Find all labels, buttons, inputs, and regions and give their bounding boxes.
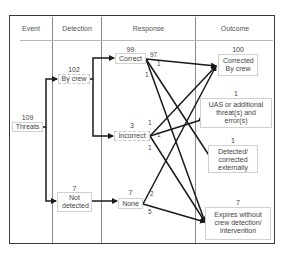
- edge-label-none-corrected: 2: [150, 190, 154, 197]
- edge-label-correct-detected: 1: [157, 60, 161, 67]
- detected-externally-count: 1: [208, 137, 258, 145]
- uas-or-additional-node: UAS or additional threat(s) and error(s): [200, 98, 272, 128]
- corrected-by-crew-node: Corrected By crew: [218, 54, 258, 76]
- threats-node: Threats: [12, 122, 43, 132]
- expires-count: 7: [205, 199, 271, 207]
- by-crew-node: By crew: [58, 74, 90, 84]
- threats-count: 109: [12, 114, 43, 122]
- edge-label-none-expires: 5: [148, 208, 152, 215]
- by-crew-count: 102: [58, 66, 90, 74]
- corrected-by-crew-count: 100: [218, 46, 258, 54]
- edge-label-incorrect-expires: 1: [148, 144, 152, 151]
- detected-externally-node: Detected/ corrected externally: [208, 145, 258, 173]
- correct-node: Correct: [115, 53, 146, 64]
- edge-label-correct-corrected: 97: [150, 51, 157, 58]
- expires-node: Expires without crew detection/ interven…: [205, 207, 271, 240]
- not-detected-node: Not detected: [57, 192, 92, 212]
- none-node: None: [118, 198, 143, 209]
- incorrect-node: Incorrect: [114, 131, 150, 141]
- edge-label-incorrect-uas: 1: [157, 131, 161, 138]
- none-count: 7: [118, 189, 143, 197]
- uas-count: 1: [200, 90, 272, 98]
- incorrect-count: 3: [114, 122, 150, 130]
- edge-label-correct-expires: 1: [145, 71, 149, 78]
- edge-label-incorrect-corrected: 1: [148, 119, 152, 126]
